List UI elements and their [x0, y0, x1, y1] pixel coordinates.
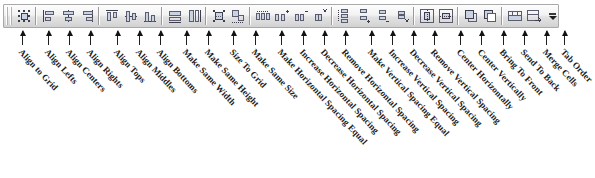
toolbar-drag-grip[interactable] — [6, 7, 12, 25]
toolbar-button-merge-cells[interactable] — [505, 6, 524, 26]
make-vertical-spacing-equal-icon — [337, 8, 353, 24]
toolbar-button-center-horizontally[interactable] — [417, 6, 436, 26]
toolbar-separator — [98, 7, 100, 25]
callout-arrow-up-icon — [117, 31, 118, 45]
toolbar-button-increase-horizontal-spacing[interactable] — [272, 6, 291, 26]
decrease-vertical-spacing-icon — [375, 8, 391, 24]
toolbar-overflow-button[interactable] — [547, 6, 558, 26]
callout-arrow-up-icon — [324, 31, 325, 45]
toolbar-separator — [249, 7, 251, 25]
toolbar-button-remove-horizontal-spacing[interactable] — [310, 6, 329, 26]
callout-arrow-up-icon — [345, 31, 346, 45]
callout-arrow-up-icon — [186, 31, 187, 45]
toolbar-button-make-same-height[interactable] — [184, 6, 203, 26]
callout-arrow-up-icon — [22, 31, 23, 45]
align-to-grid-icon — [16, 8, 32, 24]
callout-arrow-up-icon — [90, 31, 91, 45]
callout-arrow-up-icon — [233, 31, 234, 45]
toolbar-button-center-vertically[interactable] — [436, 6, 455, 26]
callout-arrow-up-icon — [546, 31, 547, 45]
toolbar-button-align-lefts[interactable] — [39, 6, 58, 26]
align-lefts-icon — [41, 8, 57, 24]
callout-arrow-up-icon — [208, 31, 209, 45]
chevron-down-icon — [549, 16, 557, 20]
toolbar-button-decrease-vertical-spacing[interactable] — [373, 6, 392, 26]
toolbar-separator — [205, 7, 207, 25]
align-rights-icon — [79, 8, 95, 24]
toolbar-button-size-to-grid[interactable] — [209, 6, 228, 26]
callout-arrow-up-icon — [48, 31, 49, 45]
toolbar-overflow-bar-icon — [549, 13, 556, 15]
toolbar-separator — [501, 7, 503, 25]
send-to-back-icon — [482, 8, 498, 24]
toolbar-button-make-horizontal-spacing-equal[interactable] — [253, 6, 272, 26]
make-same-height-icon — [186, 8, 202, 24]
toolbar-separator — [457, 7, 459, 25]
callout-arrow-up-icon — [69, 31, 70, 45]
align-middles-icon — [123, 8, 139, 24]
toolbar-separator — [161, 7, 163, 25]
increase-vertical-spacing-icon — [356, 8, 372, 24]
tab-order-icon — [526, 8, 542, 24]
remove-horizontal-spacing-icon — [312, 8, 328, 24]
callout-arrow-up-icon — [564, 31, 565, 45]
align-tops-icon — [104, 8, 120, 24]
toolbar-button-align-to-grid[interactable] — [14, 6, 33, 26]
callout-arrow-up-icon — [371, 31, 372, 45]
toolbar-button-make-vertical-spacing-equal[interactable] — [335, 6, 354, 26]
toolbar-button-make-same-width[interactable] — [165, 6, 184, 26]
toolbar-button-send-to-back[interactable] — [480, 6, 499, 26]
toolbar-separator — [35, 7, 37, 25]
make-same-size-icon — [230, 8, 246, 24]
remove-vertical-spacing-icon — [394, 8, 410, 24]
make-same-width-icon — [167, 8, 183, 24]
callout-arrow-up-icon — [281, 31, 282, 45]
size-to-grid-icon — [211, 8, 227, 24]
callout-label: Decrease Horizontal Spacing — [319, 47, 404, 137]
toolbar-button-decrease-horizontal-spacing[interactable] — [291, 6, 310, 26]
toolbar-button-align-tops[interactable] — [102, 6, 121, 26]
center-horizontally-icon — [419, 8, 435, 24]
toolbar-button-align-middles[interactable] — [121, 6, 140, 26]
callout-arrow-up-icon — [255, 31, 256, 45]
layout-toolbar[interactable] — [3, 4, 559, 28]
decrease-horizontal-spacing-icon — [293, 8, 309, 24]
callout-arrow-up-icon — [160, 31, 161, 45]
callout-arrow-up-icon — [139, 31, 140, 45]
toolbar-separator — [413, 7, 415, 25]
toolbar-button-make-same-size[interactable] — [228, 6, 247, 26]
callout-arrow-up-icon — [413, 31, 414, 45]
toolbar-button-increase-vertical-spacing[interactable] — [354, 6, 373, 26]
make-horizontal-spacing-equal-icon — [255, 8, 271, 24]
callout-arrow-up-icon — [503, 31, 504, 45]
center-vertically-icon — [438, 8, 454, 24]
callout-arrow-up-icon — [524, 31, 525, 45]
callout-arrow-up-icon — [434, 31, 435, 45]
callout-arrow-up-icon — [392, 31, 393, 45]
increase-horizontal-spacing-icon — [274, 8, 290, 24]
callout-arrow-up-icon — [303, 31, 304, 45]
toolbar-button-tab-order[interactable] — [524, 6, 543, 26]
toolbar-button-align-centers[interactable] — [58, 6, 77, 26]
toolbar-separator — [331, 7, 333, 25]
align-bottoms-icon — [142, 8, 158, 24]
toolbar-button-align-bottoms[interactable] — [140, 6, 159, 26]
merge-cells-icon — [507, 8, 523, 24]
toolbar-button-remove-vertical-spacing[interactable] — [392, 6, 411, 26]
callout-arrow-up-icon — [460, 31, 461, 45]
toolbar-button-align-rights[interactable] — [77, 6, 96, 26]
bring-to-front-icon — [463, 8, 479, 24]
callout-arrow-up-icon — [481, 31, 482, 45]
align-centers-icon — [60, 8, 76, 24]
toolbar-button-bring-to-front[interactable] — [461, 6, 480, 26]
